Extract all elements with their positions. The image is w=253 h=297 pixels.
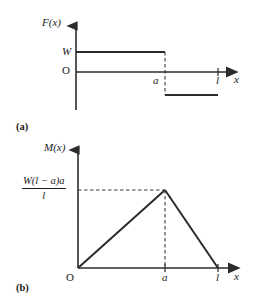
y-tick-label-moment-max: W(l − a)a l <box>22 175 66 202</box>
moment-max-denominator: l <box>22 189 66 202</box>
x-axis-label-a: x <box>234 74 239 85</box>
caption-b: (b) <box>16 283 29 294</box>
engineering-figure: F(x) W O a l x (a) M(x) W(l − a)a l O a … <box>0 0 253 297</box>
bending-moment-diagram <box>78 150 239 272</box>
moment-rising-limb <box>78 190 165 268</box>
y-axis-label-b: M(x) <box>44 142 65 153</box>
moment-max-numerator: W(l − a)a <box>22 175 66 189</box>
x-tick-label-a-panel-a: a <box>153 75 159 86</box>
y-tick-label-W: W <box>62 46 71 57</box>
x-tick-label-l-panel-a: l <box>216 75 219 86</box>
shear-force-diagram <box>76 26 237 110</box>
figure-canvas <box>0 0 253 297</box>
origin-label-b: O <box>66 272 74 283</box>
origin-label-a: O <box>62 65 70 76</box>
x-tick-label-a-panel-b: a <box>162 272 168 283</box>
x-axis-label-b: x <box>234 271 239 282</box>
y-axis-label-a: F(x) <box>42 17 61 28</box>
x-tick-label-l-panel-b: l <box>216 272 219 283</box>
caption-a: (a) <box>16 122 28 133</box>
moment-falling-limb <box>165 190 218 268</box>
